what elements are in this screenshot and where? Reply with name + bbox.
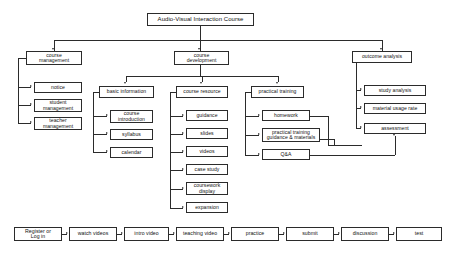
arrowhead-practical-training-materials [258, 133, 260, 135]
connector-bi-course-introduction [93, 116, 107, 117]
node-study-analysis: study analysis [364, 85, 426, 96]
arrowhead-expansion [182, 206, 184, 208]
flow-arrowhead-1 [66, 232, 68, 234]
connector-drop-outcome-analysis [382, 40, 383, 51]
node-coursework-display: coursework display [186, 182, 228, 195]
connector-cm-student [18, 105, 31, 106]
connector-drop-basic-information [126, 76, 127, 82]
node-teacher-management: teacher management [34, 117, 82, 130]
connector-cm-notice [18, 87, 31, 88]
node-slides: slides [186, 128, 228, 139]
connector-cr-coursework-display [170, 189, 183, 190]
flow-arrowhead-3 [173, 232, 175, 234]
connector-cr-expansion [170, 208, 183, 209]
node-outcome-analysis: outcome analysis [352, 51, 412, 63]
flow-step-teaching-video: teaching video [176, 227, 224, 241]
node-student-management: student management [34, 99, 82, 112]
flow-connector-5 [279, 234, 284, 235]
connector-pt-homework [245, 116, 259, 117]
flow-arrowhead-6 [338, 232, 340, 234]
flow-connector-7 [389, 234, 394, 235]
node-course-introduction: course introduction [110, 110, 153, 123]
node-syllabus: syllabus [110, 129, 153, 140]
crosslink-homework-v [328, 116, 329, 145]
flow-step-submit: submit [286, 227, 334, 241]
arrowhead-teacher-management [30, 121, 32, 123]
connector-oa-material-usage-rate [356, 108, 361, 109]
arrowhead-qa [258, 153, 260, 155]
node-practical-training-materials: practical training guidance & materials [262, 128, 320, 142]
flow-arrowhead-2 [121, 232, 123, 234]
flow-step-test: test [396, 227, 442, 241]
arrowhead-assessment-bottom [393, 134, 395, 136]
connector-bi-calendar [93, 152, 107, 153]
node-material-usage-rate: material usage rate [364, 103, 426, 114]
arrowhead-basic-information [124, 82, 126, 84]
flow-connector-3 [169, 234, 174, 235]
connector-level1-bus [54, 40, 382, 41]
arrowhead-notice [30, 85, 32, 87]
crosslink-homework-h [310, 116, 328, 117]
crosslink-merge-h [328, 145, 362, 146]
arrowhead-homework [258, 114, 260, 116]
node-course-management: course management [26, 51, 82, 65]
arrowhead-assessment [360, 126, 362, 128]
flow-step-practice: practice [231, 227, 279, 241]
arrowhead-material-usage-rate [360, 106, 362, 108]
arrowhead-outcome-analysis [380, 48, 382, 50]
node-course-development: course development [174, 51, 229, 65]
arrowhead-course-introduction [106, 114, 108, 116]
connector-cr-case-study [170, 170, 183, 171]
flow-connector-6 [334, 234, 339, 235]
rail-practical-training [245, 92, 246, 155]
arrowhead-coursework-display [182, 187, 184, 189]
flow-arrowhead-5 [283, 232, 285, 234]
flow-connector-4 [224, 234, 229, 235]
connector-drop-course-management [54, 40, 55, 51]
node-calendar: calendar [110, 147, 153, 158]
connector-pt-materials [245, 135, 259, 136]
connector-cd-stem [200, 65, 201, 76]
diagram-canvas: Audio-Visual Interaction Course course m… [0, 0, 456, 259]
node-basic-information: basic information [99, 86, 154, 98]
rail-course-management [18, 58, 19, 124]
arrowhead-case-study [182, 168, 184, 170]
node-notice: notice [34, 82, 82, 93]
connector-pt-qa [245, 155, 259, 156]
arrowhead-guidance [182, 114, 184, 116]
node-guidance: guidance [186, 110, 228, 121]
rail-course-resource [170, 92, 171, 208]
flow-connector-2 [117, 234, 122, 235]
node-assessment: assessment [364, 123, 426, 134]
node-practical-training: practical training [251, 86, 304, 98]
connector-root-stem [200, 26, 201, 40]
connector-oa-assessment [356, 128, 361, 129]
flow-step-discussion: discussion [341, 227, 389, 241]
node-homework: homework [262, 110, 310, 121]
connector-cr-guidance [170, 116, 183, 117]
arrowhead-course-development [198, 48, 200, 50]
connector-cm-teacher [18, 123, 31, 124]
arrowhead-course-resource [200, 82, 202, 84]
connector-cr-slides [170, 134, 183, 135]
connector-drop-course-resource [202, 76, 203, 82]
connector-oa-study-analysis [356, 90, 361, 91]
arrowhead-syllabus [106, 132, 108, 134]
node-videos: videos [186, 146, 228, 157]
arrowhead-calendar [106, 150, 108, 152]
arrowhead-slides [182, 132, 184, 134]
node-expansion: expansion [186, 202, 228, 213]
node-qa: Q&A [262, 149, 310, 160]
arrowhead-practical-training [276, 82, 278, 84]
node-course-resource: course resource [176, 86, 228, 98]
node-case-study: case study [186, 164, 228, 175]
arrowhead-videos [182, 150, 184, 152]
flow-step-register-or-log-in: Register or Log in [14, 227, 62, 241]
flow-connector-1 [62, 234, 67, 235]
arrowhead-study-analysis [360, 88, 362, 90]
flow-step-watch-videos: watch videos [69, 227, 117, 241]
arrowhead-student-management [30, 103, 32, 105]
connector-drop-practical-training [278, 76, 279, 82]
crosslink-qa-v [395, 136, 396, 155]
crosslink-materials-h [320, 139, 334, 140]
